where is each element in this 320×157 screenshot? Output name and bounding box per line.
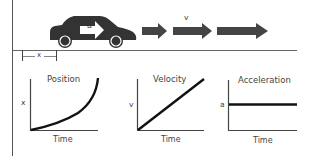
acceleration-chart-xlabel: Time	[253, 137, 273, 145]
velocity-arrows	[142, 23, 268, 39]
velocity-arrow-small-icon	[142, 23, 167, 39]
velocity-label: v	[184, 14, 188, 22]
velocity-arrow-large-icon	[217, 23, 268, 39]
acceleration-chart	[228, 80, 297, 131]
car-icon	[50, 16, 136, 48]
position-chart-xlabel: Time	[53, 136, 73, 144]
velocity-chart-xlabel: Time	[161, 136, 181, 144]
position-chart-title: Position	[47, 75, 80, 84]
velocity-chart-title: Velocity	[153, 75, 186, 84]
car-acceleration-label: a	[87, 22, 92, 30]
velocity-arrow-medium-icon	[173, 23, 212, 39]
velocity-chart-ylabel: v	[129, 101, 133, 109]
velocity-chart	[137, 79, 204, 131]
distance-label: x	[37, 52, 41, 59]
position-chart	[30, 78, 98, 131]
acceleration-chart-title: Acceleration	[238, 76, 291, 85]
acceleration-chart-ylabel: a	[220, 101, 225, 109]
position-chart-ylabel: x	[21, 99, 25, 107]
